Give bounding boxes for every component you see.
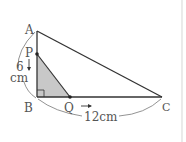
label-C: C — [162, 101, 170, 114]
point-P — [35, 52, 39, 56]
triangle-diagram: A P B Q C 6 cm 12cm — [0, 0, 186, 142]
label-Q: Q — [64, 101, 74, 115]
label-BC: 12cm — [84, 110, 118, 124]
arc-BC-left — [38, 99, 82, 116]
point-Q — [68, 95, 72, 99]
label-A: A — [24, 23, 34, 37]
arc-BC-right — [119, 99, 161, 116]
arrow-right-icon — [81, 104, 92, 108]
label-AB-unit: cm — [10, 71, 29, 85]
label-B: B — [24, 101, 33, 115]
label-P: P — [25, 46, 33, 60]
arrow-down-icon — [27, 59, 31, 71]
